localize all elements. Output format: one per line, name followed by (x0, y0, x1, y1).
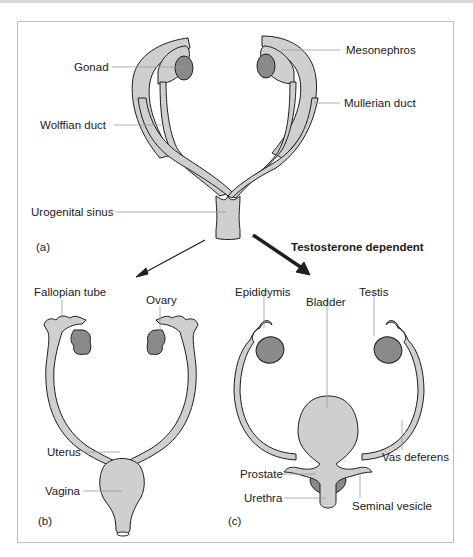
ovary-right (147, 330, 165, 355)
label-prostate: Prostate (240, 468, 283, 481)
wolffian-duct-right (230, 82, 296, 198)
label-fallopian-tube: Fallopian tube (34, 286, 106, 299)
label-vas-deferens: Vas deferens (382, 451, 449, 464)
bladder (284, 396, 372, 508)
reproductive-development-diagram (0, 0, 473, 557)
testis-left (252, 333, 287, 367)
label-urethra: Urethra (244, 492, 282, 505)
panel-c-tag: (c) (228, 515, 241, 528)
arrow-female-shaft (142, 240, 205, 274)
panel-a-indifferent-stage (132, 36, 318, 240)
label-urogenital-sinus: Urogenital sinus (31, 206, 113, 219)
label-seminal-vesicle: Seminal vesicle (352, 500, 432, 513)
label-wolffian-duct: Wolffian duct (40, 119, 106, 132)
testis-right (370, 333, 405, 367)
label-mullerian-duct: Mullerian duct (344, 97, 416, 110)
panel-b-tag: (b) (38, 515, 52, 528)
gonad-right (257, 54, 275, 78)
label-bladder: Bladder (306, 296, 346, 309)
panel-a-tag: (a) (36, 241, 50, 254)
label-mesonephros: Mesonephros (346, 44, 416, 57)
panel-b-female (44, 316, 198, 536)
label-testis: Testis (359, 286, 388, 299)
label-epididymis: Epididymis (235, 286, 291, 299)
label-vagina: Vagina (45, 485, 80, 498)
uterus (100, 459, 145, 535)
label-gonad: Gonad (74, 61, 109, 74)
vagina-opening (117, 532, 129, 536)
label-uterus: Uterus (47, 446, 81, 459)
ovary-left (71, 330, 91, 355)
gonad-left (175, 56, 193, 80)
label-ovary: Ovary (146, 294, 177, 307)
urogenital-sinus (216, 196, 240, 240)
arrows (136, 235, 310, 277)
arrow-female-head (136, 268, 148, 277)
label-testosterone-dependent: Testosterone dependent (291, 241, 424, 254)
